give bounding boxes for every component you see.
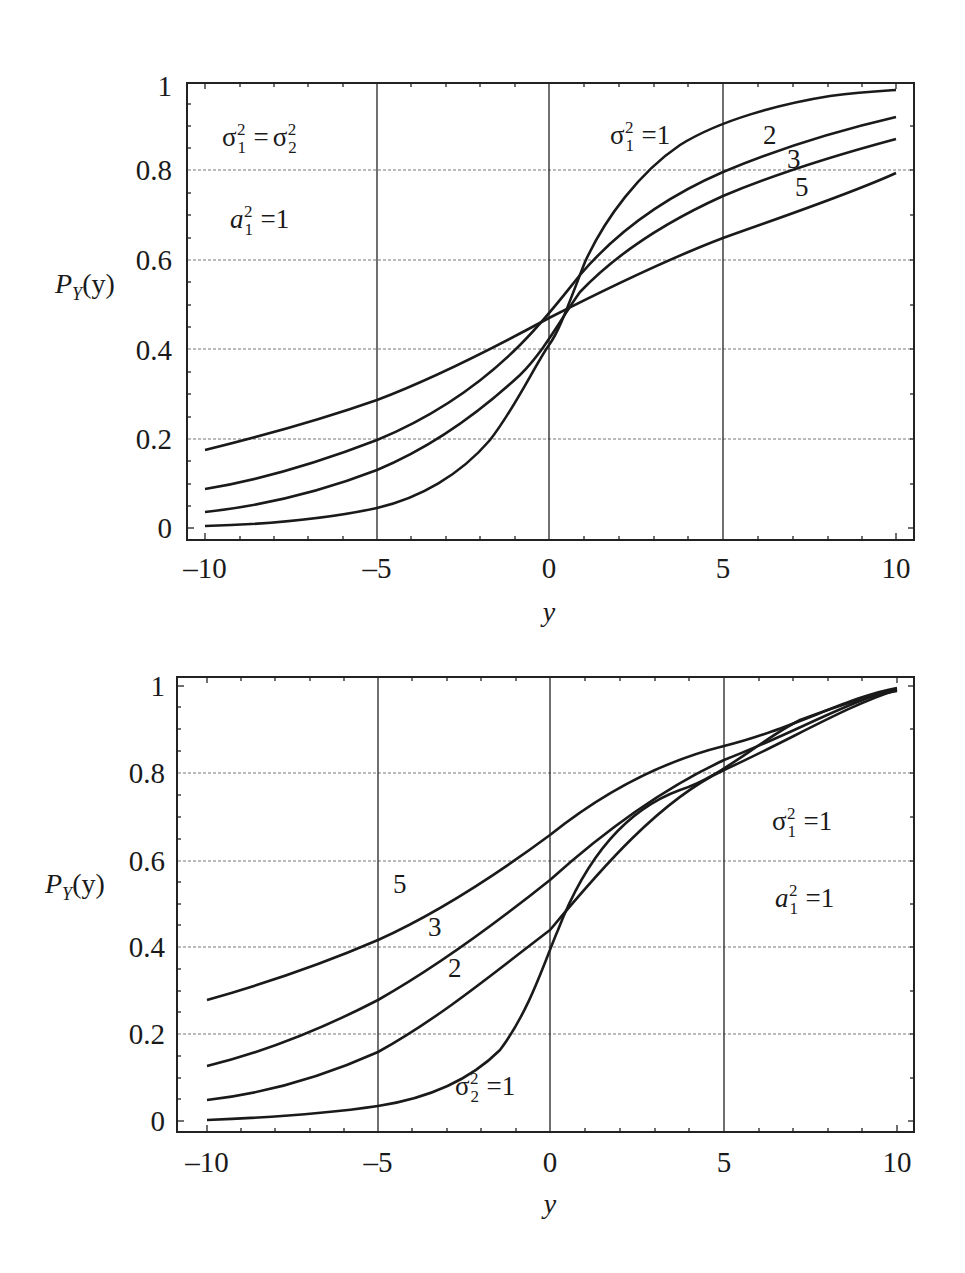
top-ytick-0: 0	[158, 512, 173, 544]
bottom-ytick-0.8: 0.8	[129, 757, 165, 789]
top-curve-label-3: 3	[787, 144, 801, 174]
bottom-annotation-sigma1: σ12=1	[772, 804, 832, 841]
bottom-ytick-0.4: 0.4	[129, 931, 166, 963]
top-curve-label-5: 5	[795, 172, 809, 202]
top-ytick-0.6: 0.6	[136, 244, 172, 276]
bottom-ytick-0.2: 0.2	[129, 1018, 165, 1050]
ylabel-arg: (y)	[82, 268, 115, 299]
ylabel-main: P	[54, 268, 72, 299]
bottom-xtick-neg10: –10	[184, 1146, 229, 1178]
bottom-ytick-0.6: 0.6	[129, 845, 165, 877]
bottom-v-gridlines	[378, 678, 724, 1132]
top-annotation-sigma1: σ12=1	[610, 118, 670, 155]
bottom-ytick-0: 0	[151, 1105, 166, 1137]
bottom-annotation-a1: a12=1	[775, 881, 834, 918]
top-annotation-a1: a12=1	[230, 202, 289, 239]
bottom-ytick-1: 1	[151, 670, 166, 702]
bottom-xtick-neg5: –5	[363, 1146, 393, 1178]
bottom-x-axis-label: y	[541, 1188, 557, 1219]
svg-text:σ12=1: σ12=1	[772, 804, 832, 841]
figure: 0 0.2 0.4 0.6 0.8 1 –10 –5 0 5 10 y PY(y…	[0, 0, 965, 1273]
svg-text:σ12=1: σ12=1	[610, 118, 670, 155]
top-h-gridlines	[188, 170, 914, 439]
top-x-tick-labels: –10 –5 0 5 10	[182, 552, 910, 584]
top-xtick-10: 10	[882, 552, 911, 584]
top-ytick-0.8: 0.8	[136, 154, 172, 186]
svg-text:σ22=1: σ22=1	[455, 1069, 515, 1106]
bottom-x-tick-labels: –10 –5 0 5 10	[184, 1146, 911, 1178]
bottom-y-tick-labels: 0 0.2 0.4 0.6 0.8 1	[129, 670, 166, 1137]
bottom-curve-label-5: 5	[393, 869, 407, 899]
top-ytick-1: 1	[158, 70, 173, 102]
bottom-curve-label-2: 2	[448, 953, 462, 983]
top-y-tick-labels: 0 0.2 0.4 0.6 0.8 1	[136, 70, 173, 544]
bottom-annotation-sigma2: σ22=1	[455, 1069, 515, 1106]
top-ytick-0.2: 0.2	[136, 423, 172, 455]
top-xtick-neg10: –10	[182, 552, 227, 584]
bottom-xtick-10: 10	[883, 1146, 912, 1178]
bottom-curve-sigma2-3	[207, 689, 897, 1066]
svg-text:a12=1: a12=1	[230, 202, 289, 239]
top-xtick-neg5: –5	[362, 552, 392, 584]
top-x-axis-label: y	[540, 596, 556, 627]
top-curve-label-2: 2	[763, 120, 777, 150]
top-chart: 0 0.2 0.4 0.6 0.8 1 –10 –5 0 5 10 y PY(y…	[54, 70, 914, 627]
svg-text:PY(y): PY(y)	[54, 268, 115, 304]
top-curve-sigma1-3	[205, 139, 896, 512]
bottom-chart: 0 0.2 0.4 0.6 0.8 1 –10 –5 0 5 10 y PY(y…	[44, 670, 914, 1219]
bottom-xtick-0: 0	[543, 1146, 558, 1178]
svg-text:a12=1: a12=1	[775, 881, 834, 918]
top-xtick-5: 5	[716, 552, 731, 584]
bottom-y-axis-label: PY(y)	[44, 868, 105, 904]
top-xtick-0: 0	[542, 552, 557, 584]
top-annotation-variance-equal: σ12=σ22	[222, 120, 297, 157]
bottom-curve-label-3: 3	[428, 912, 442, 942]
svg-text:σ12=σ22: σ12=σ22	[222, 120, 297, 157]
top-ytick-0.4: 0.4	[136, 334, 173, 366]
bottom-y-ticks	[177, 686, 914, 1121]
top-y-axis-label: PY(y)	[54, 268, 115, 304]
bottom-plot-frame	[177, 677, 914, 1132]
svg-text:PY(y): PY(y)	[44, 868, 105, 904]
bottom-xtick-5: 5	[717, 1146, 732, 1178]
